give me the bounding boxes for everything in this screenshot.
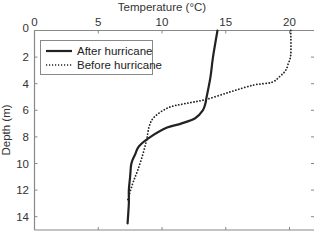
y-tick-label: 6: [23, 104, 29, 116]
y-tick-label: 0: [23, 22, 29, 34]
y-tick-label: 10: [16, 158, 29, 170]
y-tick-label: 14: [16, 211, 29, 223]
y-tick-label: 8: [23, 131, 29, 143]
x-axis-title: Temperature (°C): [118, 1, 206, 13]
y-axis-title: Depth (m): [0, 104, 12, 155]
x-tick-label: 5: [95, 16, 101, 28]
x-tick-label: 10: [156, 16, 169, 28]
y-tick-label: 4: [23, 78, 30, 90]
legend-label-before: Before hurricane: [77, 59, 162, 71]
y-tick-label: 12: [16, 184, 29, 196]
x-tick-label: 15: [219, 16, 232, 28]
depth-temperature-chart: Temperature (°C) Depth (m) 05101520 0246…: [0, 0, 314, 239]
y-tick-label: 2: [23, 51, 29, 63]
x-tick-label: 20: [283, 16, 296, 28]
x-tick-label: 0: [31, 16, 37, 28]
legend-label-after: After hurricane: [77, 45, 152, 57]
legend: After hurricane Before hurricane: [41, 41, 163, 75]
